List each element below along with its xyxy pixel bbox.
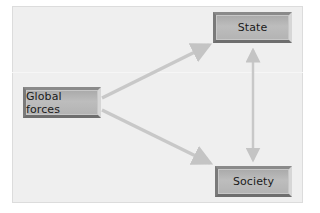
node-state: State [213,12,292,43]
node-global-forces-label: Global forces [26,90,98,116]
node-society: Society [215,166,292,197]
node-global-forces: Global forces [23,87,101,118]
node-society-label: Society [233,175,274,188]
node-state-label: State [238,21,268,34]
arrow-global-to-state [102,45,209,98]
arrow-global-to-society [102,110,210,163]
